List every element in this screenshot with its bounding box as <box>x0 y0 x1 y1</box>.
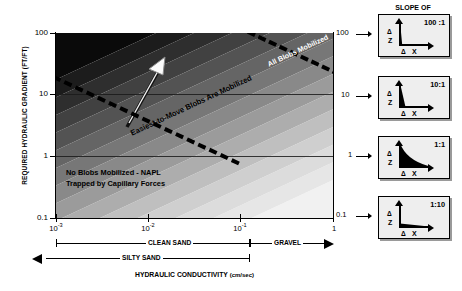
y-tick-label-1: 1 <box>22 151 48 160</box>
slope-wedge-1-10 <box>400 203 430 227</box>
x-label: X <box>412 48 417 55</box>
legend-arrowhead-100 <box>368 31 372 37</box>
slope-box-10-1: 10:1 Δ Z Δ X <box>378 76 450 119</box>
x-tick-1e-1 <box>240 214 241 222</box>
slope-wedge-100-1 <box>400 21 410 45</box>
x-tick-1e-2 <box>148 214 149 222</box>
delta-symbol-z: Δ <box>387 28 392 35</box>
gravel-left-cap <box>250 239 251 247</box>
y-tick-10 <box>50 94 56 95</box>
y-tick-label-0.1: 0.1 <box>22 213 48 222</box>
x-tick-1 <box>333 214 334 222</box>
delta-symbol-z: Δ <box>387 90 392 97</box>
legend-tick-10: 10 <box>341 90 349 99</box>
delta-symbol-x: Δ <box>401 110 406 117</box>
z-label: Z <box>388 99 392 106</box>
z-label: Z <box>388 219 392 226</box>
legend-tick-1: 1 <box>348 150 352 159</box>
clean-sand-label: CLEAN SAND <box>146 239 193 246</box>
figure-root: REQUIRED HYDRAULIC GRADIENT (FT/FT) <box>0 0 462 291</box>
x-label: X <box>412 170 417 177</box>
x-label: X <box>412 230 417 237</box>
plot-area: No Blobs Mobilized - NAPL Trapped by Cap… <box>56 33 333 218</box>
slope-box-1-10: 1:10 Δ Z Δ X <box>378 196 450 239</box>
no-blobs-annotation: No Blobs Mobilized - NAPL Trapped by Cap… <box>66 168 165 189</box>
silty-sand-right-cap <box>249 254 250 262</box>
y-tick-100 <box>50 33 56 34</box>
gridline-y-1 <box>56 156 333 157</box>
x-tick-label-1e-2: 10-2 <box>131 222 165 233</box>
x-label: X <box>412 110 417 117</box>
z-label: Z <box>388 37 392 44</box>
x-tick-1e-3 <box>56 214 57 222</box>
legend-arrowhead-10 <box>368 93 372 99</box>
slope-wedge-10-1 <box>400 83 412 107</box>
legend-arrowhead-0.1 <box>368 213 372 219</box>
legend-arrowhead-1 <box>368 153 372 159</box>
slope-wedge-1-1 <box>400 143 430 167</box>
y-tick-label-100: 100 <box>22 28 48 37</box>
grayscale-band-field <box>56 33 333 218</box>
delta-symbol-z: Δ <box>387 210 392 217</box>
clean-sand-left-cap <box>56 239 57 247</box>
x-tick-label-1e-3: 10-3 <box>39 222 73 233</box>
x-axis-title: HYDRAULIC CONDUCTIVITY (cm/sec) <box>56 271 333 278</box>
slope-box-100-1: 100 :1 Δ Z Δ X <box>378 14 450 57</box>
slope-ratio-10-1: 10:1 <box>430 80 445 89</box>
y-axis-title: REQUIRED HYDRAULIC GRADIENT (FT/FT) <box>21 36 28 196</box>
x-tick-label-1e-1: 10-1 <box>223 222 257 233</box>
silty-sand-arrow-left <box>32 254 42 264</box>
x-axis-line <box>55 218 334 219</box>
slope-ratio-1-1: 1:1 <box>434 140 445 149</box>
slope-ratio-100-1: 100 :1 <box>424 18 445 27</box>
slope-ratio-1-10: 1:10 <box>430 200 445 209</box>
slope-box-1-1: 1:1 Δ Z Δ X <box>378 136 450 179</box>
right-axis-line <box>333 32 334 219</box>
delta-x-arrowhead <box>428 42 434 50</box>
z-label: Z <box>388 159 392 166</box>
legend-tick-100: 100 <box>336 28 349 37</box>
gravel-arrow-right <box>324 239 334 249</box>
legend-tick-0.1: 0.1 <box>336 210 347 219</box>
gravel-label: GRAVEL <box>272 239 303 246</box>
delta-symbol-x: Δ <box>401 170 406 177</box>
y-axis-line <box>55 32 56 219</box>
delta-symbol-x: Δ <box>401 48 406 55</box>
y-tick-1 <box>50 156 56 157</box>
delta-symbol-x: Δ <box>401 230 406 237</box>
silty-sand-label: SILTY SAND <box>120 254 163 261</box>
delta-x-arrowhead <box>428 104 434 112</box>
y-tick-label-10: 10 <box>22 89 48 98</box>
x-tick-label-1: 1 <box>317 222 351 233</box>
delta-symbol-z: Δ <box>387 150 392 157</box>
